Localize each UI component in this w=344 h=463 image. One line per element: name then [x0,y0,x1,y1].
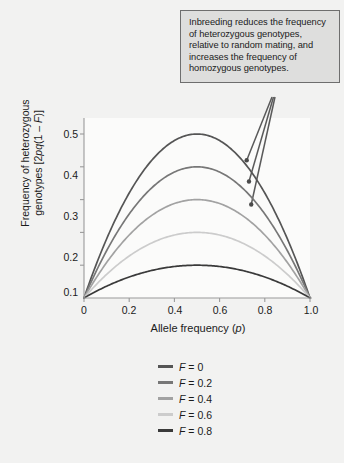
y-axis-title: Frequency of heterozygousgenotypes [2pq(… [19,68,45,258]
legend-swatch-icon-1 [158,381,173,383]
legend-item-1[interactable]: F = 0.2 [158,376,212,389]
legend-label-1: F = 0.2 [179,377,212,389]
x-tick-label-0.8: 0.8 [250,304,280,316]
chart-legend: F = 0F = 0.2F = 0.4F = 0.6F = 0.8 [158,360,212,437]
x-tick-label-0.2: 0.2 [114,304,144,316]
x-tick-label-0.6: 0.6 [205,304,235,316]
legend-label-3: F = 0.6 [179,409,212,421]
legend-label-value-2: = 0.4 [185,393,212,405]
x-axis-title-text: Allele frequency ( [151,322,236,334]
leader-endpoint-dot-1 [245,158,249,162]
legend-label-value-3: = 0.6 [185,409,212,421]
y-axis-title-variable-f: F [32,117,44,123]
y-axis-title-line2-end: )] [32,110,44,116]
leader-endpoint-dot-2 [247,179,251,183]
x-tick-label-0.4: 0.4 [160,304,190,316]
legend-label-2: F = 0.4 [179,393,212,405]
legend-item-0[interactable]: F = 0 [158,360,212,373]
y-axis-title-line2-mid: (1 – [32,123,44,144]
x-tick-label-1.0: 1.0 [296,304,326,316]
y-tick-label-0.4: 0.4 [50,169,78,181]
x-axis-title-end: ) [242,322,246,334]
legend-label-value-4: = 0.8 [185,425,212,437]
legend-swatch-icon-4 [158,429,173,431]
legend-swatch-icon-3 [158,413,173,415]
y-axis-title-variable-pq: pq [32,144,44,156]
y-axis-title-line2-pre: genotypes [2 [32,156,44,216]
y-tick-label-0.2: 0.2 [50,251,78,263]
x-tick-label-0: 0 [69,304,99,316]
legend-label-value-0: = 0 [185,361,203,373]
y-tick-label-0.1: 0.1 [50,286,78,298]
plot-background [84,118,310,298]
legend-item-3[interactable]: F = 0.6 [158,408,212,421]
leader-endpoint-dot-3 [249,202,253,206]
legend-label-4: F = 0.8 [179,425,212,437]
legend-swatch-icon-0 [158,365,173,367]
legend-label-value-1: = 0.2 [185,377,212,389]
legend-label-0: F = 0 [179,361,203,373]
y-tick-label-0.5: 0.5 [50,128,78,140]
figure-panel: Inbreeding reduces the frequency of hete… [0,0,344,463]
y-tick-label-0.3: 0.3 [50,210,78,222]
legend-swatch-icon-2 [158,397,173,399]
x-axis-title: Allele frequency (p) [84,322,312,334]
x-axis-ticks [84,298,310,302]
y-axis-ticks [80,134,84,265]
y-axis-title-line1: Frequency of heterozygous [19,99,31,226]
legend-item-4[interactable]: F = 0.8 [158,424,212,437]
legend-item-2[interactable]: F = 0.4 [158,392,212,405]
